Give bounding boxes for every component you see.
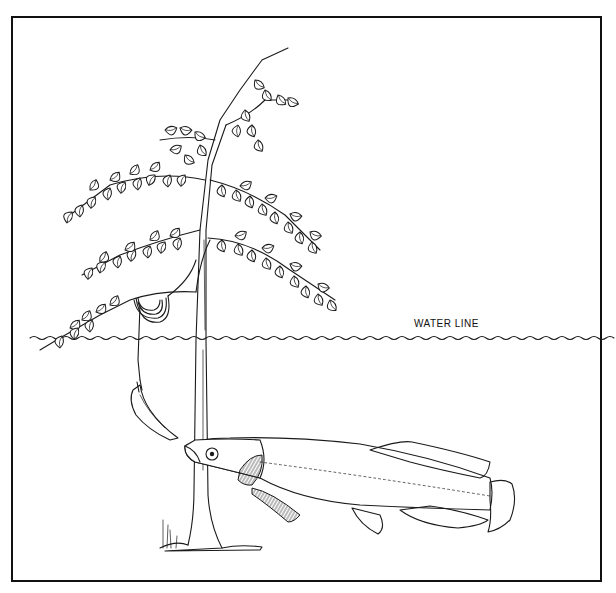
water-line-label: WATER LINE: [414, 318, 479, 329]
tree-leaves: [54, 78, 338, 348]
hanging-vine: [134, 260, 196, 380]
arowana-fish: [185, 438, 515, 534]
prey-animal: [131, 380, 178, 440]
water-line: [30, 337, 614, 340]
tree-trunk: [160, 48, 288, 551]
illustration: [0, 0, 616, 593]
